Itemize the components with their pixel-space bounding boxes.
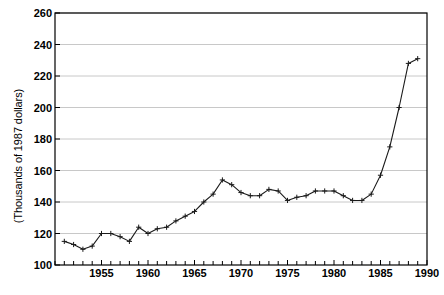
chart-plot-area <box>0 0 444 295</box>
series-path <box>64 59 417 250</box>
x-tick-label: 1980 <box>312 268 356 279</box>
x-tick-label: 1990 <box>405 268 444 279</box>
x-tick-label: 1985 <box>359 268 403 279</box>
x-tick-label: 1965 <box>173 268 217 279</box>
data-series-line <box>64 59 417 250</box>
figure-caption <box>18 286 438 295</box>
x-tick-label: 1955 <box>80 268 124 279</box>
x-tick-label: 1975 <box>266 268 310 279</box>
x-axis-ticks <box>55 260 427 265</box>
x-tick-label: 1970 <box>219 268 263 279</box>
chart-figure: (Thousands of 1987 dollars) 100120140160… <box>0 0 444 295</box>
data-series-markers <box>62 56 421 252</box>
gridlines <box>55 13 427 234</box>
y-axis-ticks <box>55 13 60 265</box>
x-tick-label: 1960 <box>126 268 170 279</box>
